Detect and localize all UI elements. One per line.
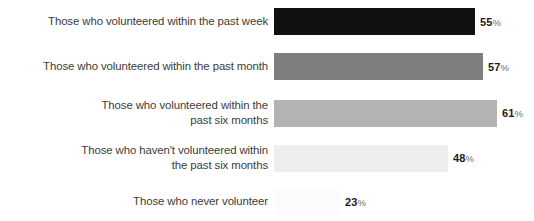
- bar-value-label: 48%: [453, 152, 474, 164]
- bar-track: 61%: [274, 100, 534, 127]
- percent-sign: %: [500, 62, 509, 73]
- horizontal-bar-chart: Those who volunteered within the past we…: [0, 0, 534, 221]
- bar-fill: [274, 100, 497, 127]
- bar-track: 55%: [274, 8, 534, 35]
- bar-value-number: 23: [345, 196, 357, 208]
- bar-fill: [274, 8, 475, 35]
- bar-category-label: Those who haven't volunteered within the…: [0, 143, 268, 173]
- bar-track: 23%: [274, 188, 534, 215]
- bar-category-label: Those who volunteered within the past si…: [0, 98, 268, 128]
- bar-fill: [274, 53, 483, 80]
- bar-fill: [274, 145, 448, 172]
- bar-category-label: Those who volunteered within the past mo…: [0, 59, 268, 74]
- percent-sign: %: [465, 153, 474, 164]
- percent-sign: %: [357, 197, 366, 208]
- chart-row: Those who volunteered within the past si…: [0, 98, 534, 128]
- bar-value-number: 48: [453, 152, 465, 164]
- chart-row: Those who never volunteer 23%: [0, 188, 534, 215]
- bar-value-label: 57%: [488, 61, 509, 73]
- bar-track: 48%: [274, 145, 534, 172]
- chart-row: Those who volunteered within the past we…: [0, 8, 534, 35]
- bar-category-label: Those who volunteered within the past we…: [0, 14, 268, 29]
- bar-value-number: 55: [480, 16, 492, 28]
- bar-track: 57%: [274, 53, 534, 80]
- bar-value-label: 55%: [480, 16, 501, 28]
- bar-value-label: 23%: [345, 196, 366, 208]
- chart-row: Those who volunteered within the past mo…: [0, 53, 534, 80]
- bar-value-number: 61: [502, 107, 514, 119]
- chart-row: Those who haven't volunteered within the…: [0, 143, 534, 173]
- percent-sign: %: [514, 108, 523, 119]
- bar-value-number: 57: [488, 61, 500, 73]
- bar-value-label: 61%: [502, 107, 523, 119]
- bar-fill: [274, 188, 340, 215]
- bar-category-label: Those who never volunteer: [0, 194, 268, 209]
- percent-sign: %: [492, 17, 501, 28]
